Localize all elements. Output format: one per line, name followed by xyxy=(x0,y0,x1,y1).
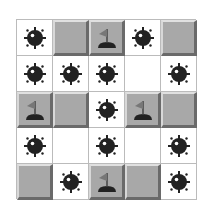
flag-icon xyxy=(94,25,120,51)
flag-icon xyxy=(22,97,48,123)
mine-icon xyxy=(166,169,192,195)
cell-4-0-covered[interactable] xyxy=(17,164,53,200)
mine-icon xyxy=(58,169,84,195)
mine-icon xyxy=(22,25,48,51)
cell-2-2-mine[interactable] xyxy=(89,92,125,128)
cell-0-0-mine[interactable] xyxy=(17,20,53,56)
cell-0-4-covered[interactable] xyxy=(161,20,197,56)
mine-icon xyxy=(94,97,120,123)
cell-1-2-mine[interactable] xyxy=(89,56,125,92)
cell-0-1-covered[interactable] xyxy=(53,20,89,56)
cell-4-3-covered[interactable] xyxy=(125,164,161,200)
cell-4-4-mine[interactable] xyxy=(161,164,197,200)
cell-1-4-mine[interactable] xyxy=(161,56,197,92)
mine-icon xyxy=(94,61,120,87)
mine-icon xyxy=(22,61,48,87)
flag-icon xyxy=(130,97,156,123)
cell-1-1-mine[interactable] xyxy=(53,56,89,92)
cell-3-0-mine[interactable] xyxy=(17,128,53,164)
cell-2-0-flag[interactable] xyxy=(17,92,53,128)
flag-icon xyxy=(94,169,120,195)
cell-3-3-empty[interactable] xyxy=(125,128,161,164)
mine-icon xyxy=(58,61,84,87)
cell-2-4-covered[interactable] xyxy=(161,92,197,128)
mine-icon xyxy=(166,133,192,159)
cell-2-1-covered[interactable] xyxy=(53,92,89,128)
cell-1-0-mine[interactable] xyxy=(17,56,53,92)
cell-3-1-empty[interactable] xyxy=(53,128,89,164)
mine-icon xyxy=(166,61,192,87)
cell-4-1-mine[interactable] xyxy=(53,164,89,200)
mine-icon xyxy=(94,133,120,159)
cell-3-4-mine[interactable] xyxy=(161,128,197,164)
mine-icon xyxy=(130,25,156,51)
cell-0-2-flag[interactable] xyxy=(89,20,125,56)
cell-0-3-mine[interactable] xyxy=(125,20,161,56)
mine-icon xyxy=(22,133,48,159)
cell-4-2-flag[interactable] xyxy=(89,164,125,200)
cell-3-2-mine[interactable] xyxy=(89,128,125,164)
cell-2-3-flag[interactable] xyxy=(125,92,161,128)
minesweeper-board xyxy=(16,19,196,199)
cell-1-3-empty[interactable] xyxy=(125,56,161,92)
